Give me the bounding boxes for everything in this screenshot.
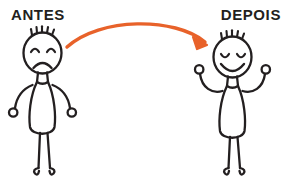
transition-arrow — [0, 0, 292, 189]
illustration-canvas: ANTES DEPOIS — [0, 0, 292, 189]
arrow-curve — [67, 24, 205, 47]
